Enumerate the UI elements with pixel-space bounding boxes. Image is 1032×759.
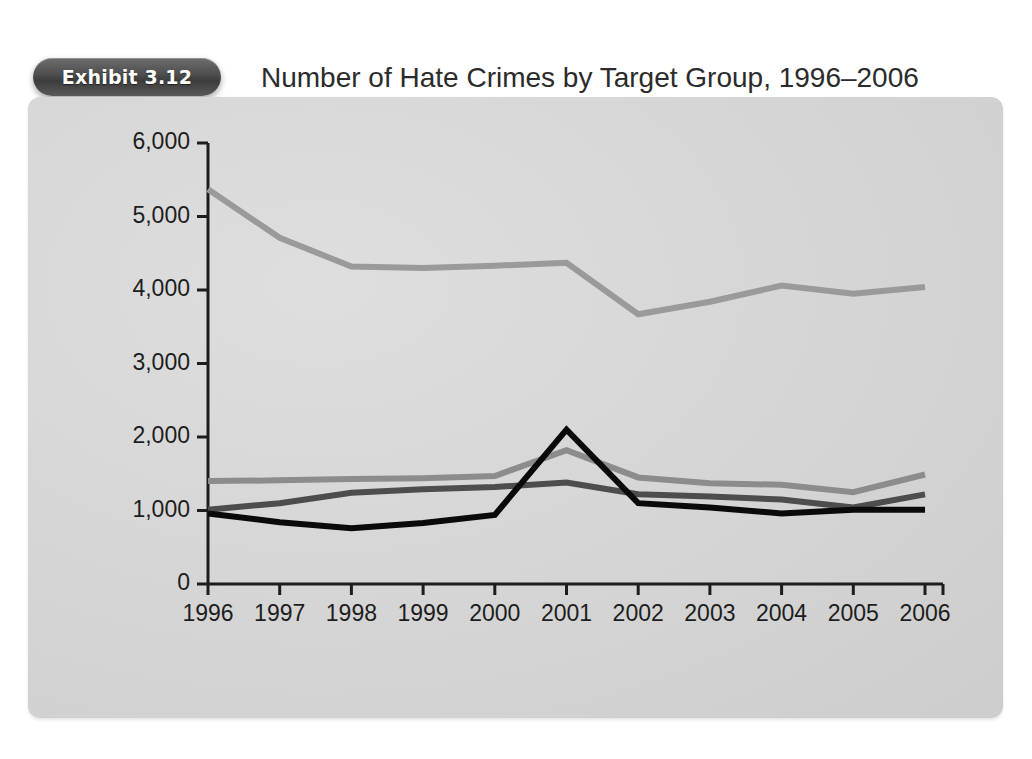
y-axis-tick-label: 2,000: [50, 422, 190, 449]
chart-panel: 01,0002,0003,0004,0005,0006,000 19961997…: [28, 97, 1003, 718]
page-title: Number of Hate Crimes by Target Group, 1…: [261, 62, 919, 94]
y-axis-tick-label: 1,000: [50, 496, 190, 523]
exhibit-figure: Exhibit 3.12 Number of Hate Crimes by Ta…: [0, 0, 1032, 759]
y-axis-tick-label: 3,000: [50, 349, 190, 376]
exhibit-header: Exhibit 3.12 Number of Hate Crimes by Ta…: [0, 26, 1032, 86]
series-line-religion: [208, 450, 925, 492]
chart-series-layer: [208, 189, 925, 528]
y-axis-tick-label: 0: [50, 569, 190, 596]
x-axis-tick-label: 2006: [880, 600, 970, 627]
exhibit-number-label: Exhibit 3.12: [62, 66, 192, 88]
exhibit-number-badge: Exhibit 3.12: [33, 58, 221, 96]
y-axis-tick-label: 4,000: [50, 275, 190, 302]
y-axis-tick-label: 6,000: [50, 128, 190, 155]
series-line-race: [208, 189, 925, 314]
y-axis-tick-label: 5,000: [50, 202, 190, 229]
